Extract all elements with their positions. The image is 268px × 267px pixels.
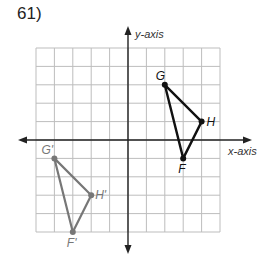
triangle-fgh-prime: G'H'F' [41,143,106,250]
y-axis-label: y-axis [134,28,164,40]
vertex-dot [199,119,205,125]
vertex-dot [88,192,94,198]
vertex-label: H' [95,188,107,202]
vertex-label: H [207,115,216,129]
coordinate-plane: y-axis x-axis GHF G'H'F' [0,0,268,267]
x-axis-right-arrow-icon [243,137,252,144]
vertex-label: F' [67,236,77,250]
y-axis-down-arrow-icon [125,245,132,254]
vertex-dot [180,155,186,161]
x-axis-left-arrow-icon [18,137,27,144]
y-axis-up-arrow-icon [125,26,132,35]
vertex-dot [70,229,76,235]
x-axis-label: x-axis [227,145,257,157]
axes: y-axis x-axis [18,26,257,254]
vertex-label: G [156,69,165,83]
vertex-label: G' [41,143,53,157]
vertex-label: F [178,162,186,176]
